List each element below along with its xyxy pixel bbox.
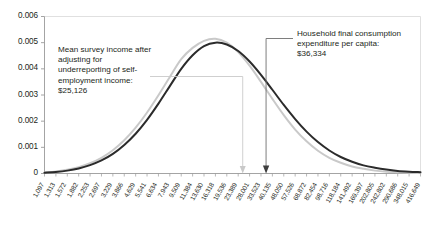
y-tick-label-6: 0.006	[0, 11, 38, 20]
arrow-head-right	[263, 166, 269, 174]
annotation-mean-survey-income: Mean survey income after adjusting for u…	[58, 45, 154, 96]
chart-container: 00.0010.0020.0030.0040.0050.006 1,0971,3…	[0, 0, 427, 226]
y-tick-label-0: 0	[0, 168, 38, 177]
annotation-household-consumption: Household final consumption expenditure …	[297, 29, 405, 60]
y-tick-label-2: 0.002	[0, 116, 38, 125]
y-tick-label-4: 0.004	[0, 63, 38, 72]
y-tick-label-1: 0.001	[0, 142, 38, 151]
arrow-head-left	[240, 166, 246, 174]
y-tick-label-3: 0.003	[0, 90, 38, 99]
y-tick-label-5: 0.005	[0, 37, 38, 46]
